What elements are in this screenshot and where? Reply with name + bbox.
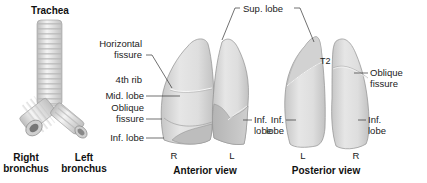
right-bronchus-label: Right bronchus	[2, 152, 50, 174]
anterior-side-l: L	[226, 150, 238, 161]
oblique-fissure-anterior-line-2: fissure	[92, 113, 144, 124]
anterior-left-lung	[212, 39, 248, 144]
posterior-view-title: Posterior view	[284, 165, 368, 176]
left-bronchus-label: Left bronchus	[59, 152, 109, 174]
horizontal-fissure-line-1: Horizontal	[88, 38, 142, 49]
inf-lobe-posterior-right-line-2: lobe	[368, 125, 386, 136]
inf-lobe-posterior-left-line-1: Inf.	[262, 114, 284, 125]
inf-lobe-anterior-right-label: Inf. lobe	[92, 132, 144, 143]
sup-lobe-label: Sup. lobe	[243, 3, 283, 14]
mid-lobe-label: Mid. lobe	[92, 90, 144, 101]
posterior-left-lung	[285, 37, 326, 148]
oblique-fissure-posterior-label: Oblique fissure	[370, 67, 403, 89]
oblique-fissure-anterior-label: Oblique fissure	[92, 102, 144, 124]
posterior-right-lung	[332, 39, 369, 149]
left-bronchus-line-1: Left	[59, 152, 109, 163]
horizontal-fissure-line-2: fissure	[88, 49, 142, 60]
right-bronchus-line-1: Right	[2, 152, 50, 163]
inf-lobe-posterior-left-line-2: lobe	[262, 125, 284, 136]
horizontal-fissure-label: Horizontal fissure	[88, 38, 142, 60]
fourth-rib-label: 4th rib	[100, 74, 142, 85]
posterior-side-r: R	[350, 150, 362, 161]
inf-lobe-posterior-right-label: Inf. lobe	[368, 114, 386, 136]
inf-lobe-posterior-left-label: Inf. lobe	[262, 114, 284, 136]
oblique-fissure-anterior-line-1: Oblique	[92, 102, 144, 113]
right-bronchus-line-2: bronchus	[2, 163, 50, 174]
trachea-illustration	[14, 20, 90, 140]
oblique-fissure-posterior-line-2: fissure	[370, 78, 403, 89]
oblique-fissure-posterior-line-1: Oblique	[370, 67, 403, 78]
inf-lobe-posterior-right-line-1: Inf.	[368, 114, 386, 125]
anterior-view-title: Anterior view	[168, 165, 242, 176]
posterior-side-l: L	[297, 150, 309, 161]
lung-anatomy-diagram: Trachea Right bronchus Left bronchus Hor…	[0, 0, 427, 183]
trachea-title: Trachea	[27, 5, 73, 16]
anterior-side-r: R	[168, 150, 180, 161]
anterior-right-lung	[161, 39, 214, 144]
left-bronchus-line-2: bronchus	[59, 163, 109, 174]
t2-label: T2	[320, 56, 331, 67]
